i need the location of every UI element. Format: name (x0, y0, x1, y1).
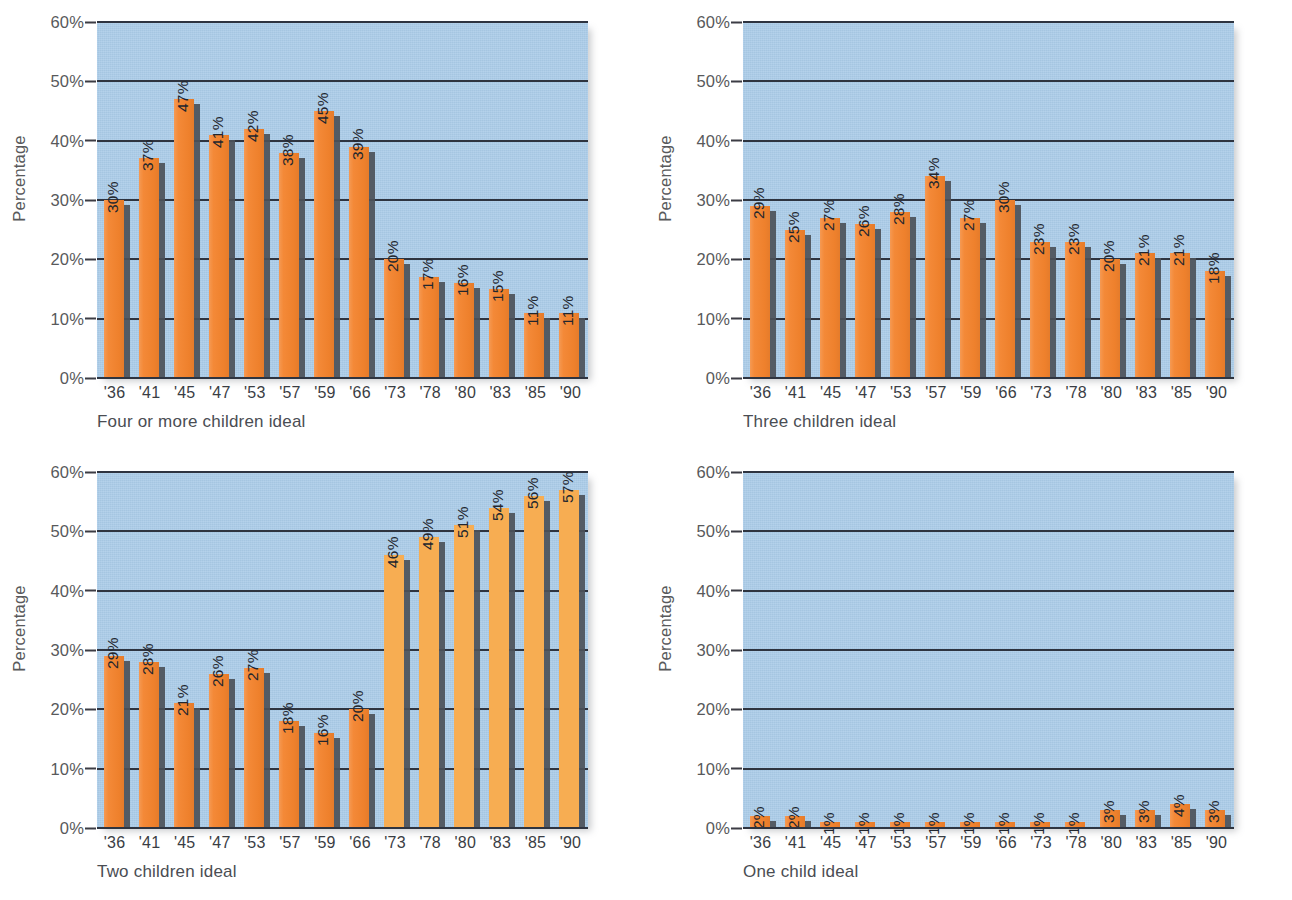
bar-group[interactable] (1205, 271, 1231, 378)
bar[interactable] (419, 277, 439, 378)
bar-group[interactable] (139, 662, 165, 828)
bar-group[interactable] (559, 490, 585, 828)
bar-group[interactable] (279, 153, 305, 378)
bar[interactable] (489, 508, 509, 828)
bar-group[interactable] (279, 721, 305, 828)
bar-group[interactable] (489, 289, 515, 378)
bar-group[interactable] (1065, 242, 1091, 378)
bar[interactable] (314, 111, 334, 378)
bar-group[interactable] (349, 709, 375, 828)
bar[interactable] (750, 206, 770, 378)
plot-area: 30%37%47%41%42%38%45%39%20%17%16%15%11%1… (97, 22, 588, 378)
bar-group[interactable] (104, 200, 130, 378)
x-tick-label: '41 (785, 384, 806, 402)
x-axis-ticks: '36'41'45'47'53'57'59'66'73'78'80'83'85'… (743, 384, 1234, 406)
bar-group[interactable] (419, 537, 445, 828)
bar[interactable] (524, 496, 544, 828)
bar[interactable] (785, 230, 805, 378)
bar[interactable] (174, 99, 194, 378)
bar-group[interactable] (785, 230, 811, 378)
bar[interactable] (454, 525, 474, 828)
bar-group[interactable] (174, 703, 200, 828)
y-tick-label: 0% (60, 819, 84, 838)
bar[interactable] (489, 289, 509, 378)
bar[interactable] (1100, 259, 1120, 378)
bar-group[interactable] (139, 158, 165, 378)
bar[interactable] (349, 709, 369, 828)
bar-shadow (945, 181, 951, 378)
bar[interactable] (314, 733, 334, 828)
bar-group[interactable] (419, 277, 445, 378)
bar[interactable] (1170, 253, 1190, 378)
bar[interactable] (104, 200, 124, 378)
chart-panel-1: Percentage0%10%20%30%40%50%60%30%37%47%4… (0, 0, 646, 450)
bar[interactable] (820, 218, 840, 378)
bar[interactable] (419, 537, 439, 828)
bar[interactable] (139, 662, 159, 828)
bar-group[interactable] (209, 135, 235, 378)
bar[interactable] (559, 490, 579, 828)
x-tick-label: '66 (995, 384, 1016, 402)
bar-group[interactable] (349, 147, 375, 378)
bar[interactable] (384, 555, 404, 828)
bar-group[interactable] (454, 525, 480, 828)
bar[interactable] (244, 668, 264, 828)
bar-group[interactable] (524, 496, 550, 828)
bar-group[interactable] (209, 674, 235, 828)
bar[interactable] (279, 721, 299, 828)
bar-group[interactable] (314, 733, 340, 828)
y-tick-mark (731, 649, 742, 651)
bar[interactable] (1205, 271, 1225, 378)
bar[interactable] (139, 158, 159, 378)
x-tick-label: '45 (174, 834, 195, 852)
x-tick-label: '83 (1136, 384, 1157, 402)
bar-group[interactable] (1135, 253, 1161, 378)
chart-caption: Four or more children ideal (97, 412, 306, 432)
bar-group[interactable] (995, 200, 1021, 378)
bar-group[interactable] (1030, 242, 1056, 378)
bar[interactable] (174, 703, 194, 828)
bar-group[interactable] (314, 111, 340, 378)
bar-group[interactable] (384, 555, 410, 828)
x-tick-label: '66 (995, 834, 1016, 852)
bar[interactable] (209, 674, 229, 828)
bar-group[interactable] (855, 224, 881, 378)
bar-group[interactable] (820, 218, 846, 378)
bar[interactable] (995, 200, 1015, 378)
bar-group[interactable] (244, 668, 270, 828)
bar-group[interactable] (960, 218, 986, 378)
bar[interactable] (384, 259, 404, 378)
bar[interactable] (1065, 242, 1085, 378)
bar-group[interactable] (104, 656, 130, 828)
bar-group[interactable] (454, 283, 480, 378)
bar[interactable] (104, 656, 124, 828)
bar[interactable] (925, 176, 945, 378)
bar-group[interactable] (890, 212, 916, 378)
bar[interactable] (244, 129, 264, 378)
bar-value-label: 23% (1030, 223, 1048, 255)
bar-group[interactable] (244, 129, 270, 378)
bar[interactable] (855, 224, 875, 378)
bar[interactable] (279, 153, 299, 378)
bar-value-label: 11% (559, 295, 577, 325)
bar[interactable] (960, 218, 980, 378)
bar[interactable] (1135, 253, 1155, 378)
bar-value-label: 1% (890, 812, 908, 835)
bar-group[interactable] (1170, 253, 1196, 378)
bar-group[interactable] (925, 176, 951, 378)
bar-group[interactable] (1100, 259, 1126, 378)
x-tick-label: '41 (785, 834, 806, 852)
bar[interactable] (890, 212, 910, 378)
bar-group[interactable] (384, 259, 410, 378)
bar-group[interactable] (174, 99, 200, 378)
x-tick-label: '73 (1030, 834, 1051, 852)
bar[interactable] (349, 147, 369, 378)
y-tick-mark (731, 140, 742, 142)
bar-group[interactable] (489, 508, 515, 828)
bar[interactable] (209, 135, 229, 378)
bar[interactable] (454, 283, 474, 378)
bar-value-label: 20% (349, 691, 367, 723)
bar-value-label: 41% (209, 116, 227, 148)
bar-group[interactable] (750, 206, 776, 378)
bar[interactable] (1030, 242, 1050, 378)
